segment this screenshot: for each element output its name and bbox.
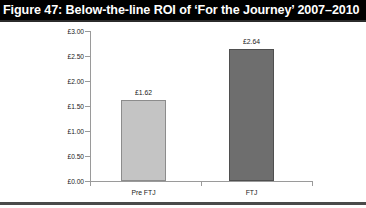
y-axis-tick [85,131,91,132]
y-axis-label-wrap: £0.50 [34,153,84,160]
y-axis-tick-label: £1.00 [40,128,84,135]
y-axis-label-wrap: £1.50 [34,103,84,110]
x-axis-tick [201,181,202,186]
y-axis-label-wrap: £3.00 [34,28,84,35]
y-axis-tick-label: £0.50 [40,153,84,160]
bar-ftj[interactable] [229,49,274,181]
bar-value-label-pre-ftj: £1.62 [113,89,174,97]
y-axis-tick [85,156,91,157]
figure-container: Figure 47: Below-the-line ROI of ‘For th… [0,0,366,208]
y-axis-tick [85,81,91,82]
y-axis-tick [85,106,91,107]
bar-pre-ftj[interactable] [121,100,166,181]
y-axis-label-wrap: £2.50 [34,53,84,60]
x-axis-category-label-pre-ftj: Pre FTJ [113,188,174,197]
y-axis-tick-label: £1.50 [40,103,84,110]
y-axis-tick-label: £3.00 [40,28,84,35]
y-axis-label-wrap: £1.00 [34,128,84,135]
bar-value-label-ftj: £2.64 [221,38,282,46]
y-axis-tick-label: £2.00 [40,78,84,85]
x-axis-tick [90,181,91,186]
x-axis-tick [312,181,313,186]
x-axis-category-label-ftj: FTJ [221,188,282,197]
y-axis-label-wrap: £2.00 [34,78,84,85]
y-axis-label-wrap: £0.00 [34,178,84,185]
figure-title: Figure 47: Below-the-line ROI of ‘For th… [0,0,366,20]
bar-chart-plot-area: £3.00 £2.50 £2.00 £1.50 £1.00 £0.50 £0.0… [0,22,366,202]
y-axis-tick [85,31,91,32]
y-axis-tick-label: £0.00 [40,178,84,185]
y-axis-tick [85,56,91,57]
frame-rule-bottom [0,202,366,205]
y-axis-tick-label: £2.50 [40,53,84,60]
